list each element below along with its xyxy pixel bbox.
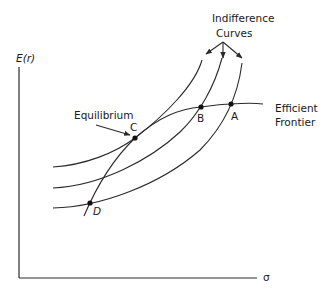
y-axis-label: E(r)	[16, 52, 35, 64]
equilibrium-label: Equilibrium	[74, 109, 134, 121]
indifference-label-line2: Curves	[216, 27, 252, 39]
point-c-label: C	[130, 121, 137, 133]
point-d-marker	[87, 200, 92, 205]
indifference-curve-diagram: E(r) σ Indifference Curves Equilibrium E…	[0, 0, 325, 290]
point-c-marker	[132, 135, 137, 140]
x-axis-label: σ	[263, 271, 270, 283]
equilibrium-arrow	[96, 125, 130, 135]
frontier-label-line1: Efficient	[275, 102, 318, 114]
point-a-marker	[228, 101, 233, 106]
indifference-label-line1: Indifference	[212, 12, 274, 24]
indifference-arrow-1	[206, 42, 223, 54]
point-d-label: D	[93, 205, 101, 217]
point-a-label: A	[231, 110, 239, 122]
indifference-arrow-3	[223, 42, 242, 58]
point-b-marker	[198, 104, 203, 109]
point-b-label: B	[197, 112, 204, 124]
frontier-label-line2: Frontier	[275, 116, 316, 128]
indifference-curve-3	[53, 63, 242, 208]
